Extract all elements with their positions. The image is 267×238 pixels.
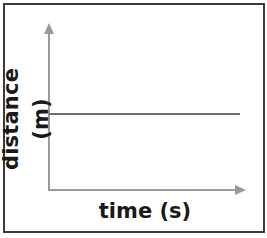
x-axis xyxy=(48,185,246,195)
y-axis-label: distance (m) xyxy=(0,54,26,184)
y-axis-arrow-icon xyxy=(44,23,54,34)
x-axis-label: time (s) xyxy=(60,196,230,226)
x-axis-arrow-icon xyxy=(235,185,246,195)
